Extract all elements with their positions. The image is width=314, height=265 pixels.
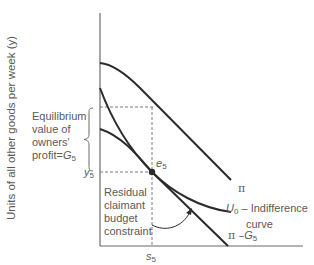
indifference-curve-label: U0 – Indifference curve xyxy=(226,202,308,231)
budget-constraint-label: π –G5 xyxy=(228,229,257,245)
y5-label: y5 xyxy=(84,166,94,182)
arrow-icon xyxy=(152,212,190,228)
e5-label: e5 xyxy=(156,157,167,173)
pi-label: π xyxy=(238,182,245,195)
equilibrium-point xyxy=(149,169,155,175)
equilibrium-profit-label: Equilibrium value of owners' profit=G5 xyxy=(32,110,86,165)
y-axis-label: Units of all other goods per week (y) xyxy=(5,36,17,220)
s5-label: s5 xyxy=(146,250,156,265)
residual-claimant-label: Residual claimant budget constraint xyxy=(104,186,152,238)
